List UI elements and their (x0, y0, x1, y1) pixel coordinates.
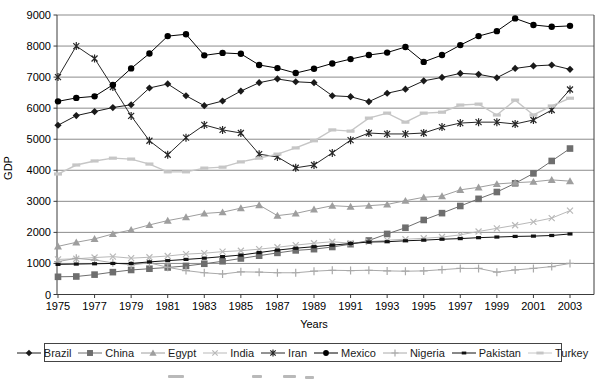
legend: BrazilChinaEgyptIndiaIranMexicoNigeriaPa… (44, 343, 562, 362)
data-point-marker (347, 267, 355, 275)
series-line (58, 46, 570, 168)
data-point-marker (200, 167, 208, 170)
data-point-marker (366, 52, 372, 58)
data-point-marker (292, 269, 300, 277)
legend-label: Pakistan (479, 347, 521, 359)
x-tick-label: 1981 (155, 300, 179, 312)
legend-label: China (105, 347, 134, 359)
legend-item-india: India (203, 347, 254, 359)
data-point-marker (475, 103, 483, 106)
data-point-marker (440, 238, 445, 241)
data-point-marker (91, 271, 98, 278)
data-point-marker (293, 247, 298, 250)
data-point-marker (238, 51, 244, 57)
data-point-marker (110, 269, 117, 276)
series-mexico (55, 15, 573, 104)
data-point-marker (548, 158, 555, 165)
data-point-marker (493, 113, 501, 116)
data-point-marker (310, 139, 318, 142)
data-point-marker (476, 236, 481, 239)
plot-border (57, 15, 594, 295)
data-point-marker (493, 268, 501, 276)
legend-label: Iran (288, 347, 307, 359)
legend-label: Turkey (555, 347, 588, 359)
data-point-marker (87, 350, 93, 356)
data-point-marker (219, 270, 227, 278)
x-tick-label: 1989 (302, 300, 326, 312)
data-point-marker (348, 136, 354, 144)
data-point-marker (438, 74, 445, 81)
tick-labels: 0100020003000400050006000700080009000197… (27, 9, 583, 312)
data-point-marker (129, 262, 134, 265)
axes (54, 15, 595, 298)
legend-item-pakistan: Pakistan (452, 347, 521, 359)
legend-label: Nigeria (410, 347, 445, 359)
data-point-marker (347, 130, 355, 133)
square-marker-icon (78, 348, 102, 358)
data-point-marker (401, 267, 409, 275)
data-point-marker (566, 66, 573, 73)
series-line (58, 18, 570, 101)
y-tick-label: 3000 (27, 195, 51, 207)
data-point-marker (147, 260, 152, 263)
data-point-marker (237, 268, 245, 276)
data-point-marker (127, 157, 135, 160)
data-point-marker (531, 235, 536, 238)
data-point-marker (462, 351, 467, 354)
data-point-marker (128, 65, 134, 71)
legend-label: Brazil (44, 347, 72, 359)
data-point-marker (73, 273, 80, 280)
data-point-marker (184, 258, 189, 261)
data-point-marker (165, 33, 171, 39)
x-marker-icon (203, 348, 227, 358)
data-point-marker (511, 98, 519, 101)
series-line (58, 180, 570, 246)
data-series (54, 15, 574, 280)
data-point-marker (54, 172, 62, 175)
x-tick-label: 1983 (192, 300, 216, 312)
data-point-marker (391, 349, 398, 356)
data-point-marker (91, 159, 99, 162)
x-tick-label: 1979 (119, 300, 143, 312)
legend-label: Egypt (168, 347, 196, 359)
data-point-marker (219, 166, 227, 169)
data-point-marker (568, 232, 573, 235)
data-point-marker (439, 52, 445, 58)
data-point-marker (109, 157, 117, 160)
data-point-marker (201, 260, 208, 267)
data-point-marker (475, 33, 481, 39)
data-point-marker (92, 262, 97, 265)
data-point-marker (255, 201, 263, 208)
data-point-marker (329, 92, 336, 99)
data-point-marker (475, 264, 483, 272)
data-point-marker (402, 86, 409, 93)
data-point-marker (310, 79, 317, 86)
data-point-marker (529, 113, 537, 116)
data-point-marker (566, 259, 574, 267)
y-tick-label: 6000 (27, 102, 51, 114)
data-point-marker (348, 242, 353, 245)
y-tick-label: 5000 (27, 133, 51, 145)
data-point-marker (513, 235, 518, 238)
data-point-marker (165, 151, 171, 159)
data-point-marker (293, 70, 299, 76)
data-point-marker (402, 44, 408, 50)
series-iran (55, 42, 573, 172)
data-point-marker (292, 78, 299, 85)
x-tick-label: 2001 (521, 300, 545, 312)
data-point-marker (165, 259, 170, 262)
data-point-marker (329, 60, 335, 66)
data-point-marker (274, 65, 280, 71)
data-point-marker (403, 239, 408, 242)
data-point-marker (183, 31, 189, 37)
dash-small-marker-icon (452, 348, 476, 358)
data-point-marker (220, 255, 225, 258)
data-point-marker (311, 66, 317, 72)
data-point-marker (493, 74, 500, 81)
legend-item-nigeria: Nigeria (383, 347, 445, 359)
data-point-marker (255, 157, 263, 160)
data-point-marker (567, 208, 573, 214)
data-point-marker (548, 104, 556, 107)
data-point-marker (202, 257, 207, 260)
data-point-marker (257, 251, 262, 254)
